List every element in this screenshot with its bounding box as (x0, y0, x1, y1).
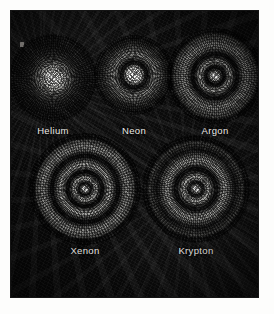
atom-label-krypton: Krypton (178, 245, 213, 256)
atom-label-argon: Argon (201, 125, 228, 136)
atom-label-helium: Helium (37, 125, 69, 136)
atom-label-xenon: Xenon (70, 245, 99, 256)
krypton-shell-pattern (148, 141, 244, 237)
argon-shell-pattern (172, 33, 258, 119)
atom-panel-xenon: Xenon (33, 139, 137, 261)
atom-label-neon: Neon (122, 125, 146, 136)
neon-shell-pattern (98, 39, 170, 111)
atom-panel-krypton: Krypton (145, 141, 247, 261)
helium-shell-pattern (14, 39, 92, 117)
atom-panel-helium: Helium (11, 39, 95, 149)
atom-panel-neon: Neon (93, 39, 175, 149)
figure-plate: Helium Neon Argon Xenon Krypton (11, 11, 258, 297)
atom-panel-argon: Argon (171, 33, 258, 149)
xenon-shell-pattern (35, 139, 135, 239)
figure-root: Helium Neon Argon Xenon Krypton (0, 0, 274, 314)
